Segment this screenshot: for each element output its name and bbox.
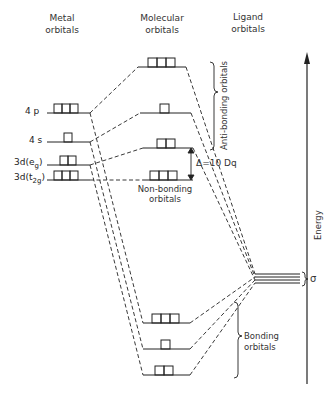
ligand-header-2: orbitals bbox=[231, 24, 265, 34]
nonbonding-label-2: orbitals bbox=[149, 194, 181, 204]
delta-arrow bbox=[188, 148, 194, 180]
metal-label-3d-t2g: 3d(t2g) bbox=[14, 172, 45, 185]
metal-header-1: Metal bbox=[50, 13, 75, 23]
bonding-label-2: orbitals bbox=[244, 342, 276, 352]
ligand-header-1: Ligand bbox=[233, 12, 263, 22]
bonding-label-1: Bonding bbox=[244, 331, 279, 341]
metal-level-4s bbox=[47, 133, 90, 142]
mo-antibonding-eg bbox=[143, 139, 193, 148]
metal-level-4p bbox=[47, 104, 90, 113]
molecular-header-2: orbitals bbox=[145, 25, 179, 35]
sigma-label: σ bbox=[310, 273, 317, 284]
mo-diagram: Metal orbitals Molecular orbitals Ligand… bbox=[0, 0, 336, 397]
nonbonding-label-1: Non-bonding bbox=[138, 184, 193, 194]
mo-bonding-t1u bbox=[143, 314, 190, 323]
mo-antibonding-t1u bbox=[138, 58, 186, 67]
energy-arrow-icon bbox=[304, 52, 310, 64]
mo-nonbonding-t2g bbox=[143, 171, 193, 180]
metal-label-3d-eg: 3d(eg) bbox=[14, 157, 42, 170]
antibonding-brace bbox=[210, 62, 218, 150]
mo-bonding-a1g bbox=[143, 340, 190, 349]
delta-label: Δ=10 Dq bbox=[196, 158, 237, 168]
metal-header-2: orbitals bbox=[45, 25, 79, 35]
antibonding-label: Anti-bonding orbitals bbox=[219, 60, 229, 150]
metal-level-3d-eg bbox=[47, 156, 90, 165]
energy-label: Energy bbox=[313, 210, 323, 240]
ligand-sigma-levels bbox=[255, 274, 300, 283]
metal-level-3d-t2g bbox=[47, 171, 90, 180]
molecular-header-1: Molecular bbox=[140, 13, 184, 23]
metal-label-4p: 4 p bbox=[25, 106, 39, 116]
mo-antibonding-a1g bbox=[140, 104, 191, 113]
metal-label-4s: 4 s bbox=[29, 135, 42, 145]
bonding-brace bbox=[234, 302, 242, 378]
mo-bonding-eg bbox=[143, 366, 190, 375]
